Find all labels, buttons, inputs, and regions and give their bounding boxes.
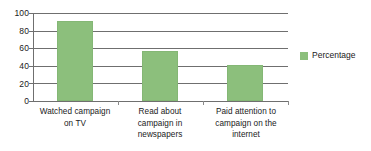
x-category-label-1-line-1: campaign in [116, 118, 204, 130]
x-category-label-1: Read about campaign in newspapers [116, 106, 204, 141]
bar-read-about-campaign-in-newspapers [142, 51, 178, 101]
legend-swatch-percentage [300, 52, 308, 60]
y-tick-label-40: 40 [3, 62, 29, 70]
x-tickmark-1 [118, 101, 119, 105]
x-tickmark-3 [288, 101, 289, 105]
x-category-label-0: Watched campaign on TV [28, 106, 122, 129]
x-axis-line [33, 101, 288, 102]
x-category-label-2-line-1: campaign on the [198, 118, 294, 130]
x-category-label-1-line-0: Read about [116, 106, 204, 118]
y-axis-line [33, 13, 34, 102]
legend-label-percentage: Percentage [312, 51, 355, 60]
x-category-label-2-line-2: internet [198, 129, 294, 141]
x-category-label-0-line-1: on TV [28, 118, 122, 130]
gridline-100 [33, 13, 288, 14]
bar-paid-attention-to-campaign-on-the-internet [227, 65, 263, 101]
y-tick-label-0: 0 [3, 97, 29, 105]
y-axis-tick-labels: 100 80 60 40 20 0 [0, 0, 29, 151]
x-tickmark-2 [203, 101, 204, 105]
y-tick-label-80: 80 [3, 27, 29, 35]
y-tick-label-60: 60 [3, 44, 29, 52]
x-category-label-1-line-2: newspapers [116, 129, 204, 141]
y-tick-label-100: 100 [3, 9, 29, 17]
x-category-label-2: Paid attention to campaign on the intern… [198, 106, 294, 141]
chart-legend: Percentage [300, 51, 355, 60]
x-category-label-2-line-0: Paid attention to [198, 106, 294, 118]
y-tick-label-20: 20 [3, 80, 29, 88]
bar-chart: 100 80 60 40 20 0 Watched campaign on TV… [0, 0, 371, 151]
bar-watched-campaign-on-tv [57, 21, 93, 101]
x-category-label-0-line-0: Watched campaign [28, 106, 122, 118]
